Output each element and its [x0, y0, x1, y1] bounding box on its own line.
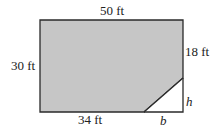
label-bottom-width: 34 ft: [78, 113, 102, 126]
label-right-upper: 18 ft: [185, 45, 209, 58]
label-top-width: 50 ft: [100, 4, 124, 17]
label-triangle-base: b: [160, 114, 167, 127]
label-triangle-height: h: [186, 95, 193, 108]
lot-diagram: 50 ft 30 ft 18 ft 34 ft b h: [0, 0, 218, 129]
label-left-height: 30 ft: [11, 59, 35, 72]
